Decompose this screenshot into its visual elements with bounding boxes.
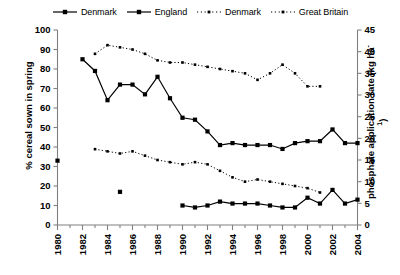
series-marker-2 [294,72,297,75]
y-axis-left-tick-label: 90 [40,44,51,55]
series-marker-3 [206,163,209,166]
y-axis-left-tick-label: 60 [40,102,51,113]
y-axis-right-title-base: phosphate application rate (kg ha [365,48,376,200]
y-axis-right-title: phosphate application rate (kg ha-1) [364,42,388,202]
series-marker-0 [355,141,359,145]
x-axis-tick-label: 1996 [252,234,263,255]
series-marker-0 [80,57,84,61]
series-line-3 [95,149,320,192]
x-axis-tick-label: 1988 [152,234,163,255]
series-marker-3 [181,163,184,166]
series-marker-0 [55,159,59,163]
y-axis-left-tick-label: 20 [40,180,51,191]
y-axis-left-tick-label: 70 [40,83,51,94]
x-axis-tick-label: 1994 [227,233,238,255]
series-marker-2 [181,61,184,64]
series-marker-2 [219,68,222,71]
series-marker-0 [143,92,147,96]
series-marker-0 [280,147,284,151]
series-marker-3 [269,180,272,183]
series-marker-0 [318,139,322,143]
x-axis-tick-label: 1986 [127,234,138,255]
series-marker-1 [305,196,309,200]
series-marker-0 [268,143,272,147]
series-marker-1 [318,201,322,205]
series-marker-0 [255,143,259,147]
x-axis-tick-label: 1998 [277,234,288,255]
y-axis-left-title: % cereal sown in spring [23,36,34,196]
series-marker-3 [244,180,247,183]
x-axis-tick-label: 2002 [327,234,338,255]
series-marker-2 [131,48,134,51]
series-marker-0 [180,116,184,120]
x-axis-tick-label: 2000 [302,234,313,255]
series-marker-0 [293,141,297,145]
series-marker-2 [194,63,197,66]
series-marker-3 [219,170,222,173]
y-axis-left-tick-label: 0 [45,219,50,230]
y-axis-right-tick-label: 45 [365,24,376,35]
series-marker-0 [218,143,222,147]
series-marker-3 [106,150,109,153]
series-marker-0 [130,83,134,87]
series-marker-1 [293,205,297,209]
series-marker-3 [281,183,284,186]
y-axis-left-tick-label: 80 [40,63,51,74]
series-marker-2 [256,79,259,82]
series-marker-3 [119,152,122,155]
series-marker-0 [105,98,109,102]
series-marker-2 [156,59,159,62]
series-line-0 [83,59,358,149]
series-marker-3 [231,176,234,179]
series-marker-0 [93,69,97,73]
series-marker-0 [305,139,309,143]
series-marker-3 [319,191,322,194]
series-marker-2 [244,72,247,75]
series-marker-3 [306,187,309,190]
series-marker-1 [343,201,347,205]
series-marker-0 [118,83,122,87]
series-marker-3 [144,154,147,157]
series-marker-0 [155,75,159,79]
series-marker-3 [156,159,159,162]
series-marker-1 [205,203,209,207]
y-axis-right-tick-label: 0 [365,219,370,230]
series-marker-2 [281,63,284,66]
y-axis-left-tick-label: 40 [40,141,51,152]
series-marker-1 [193,205,197,209]
series-marker-3 [131,150,134,153]
series-marker-1 [355,198,359,202]
series-marker-0 [330,127,334,131]
series-marker-1 [280,205,284,209]
series-marker-2 [269,72,272,75]
series-marker-1 [243,201,247,205]
series-marker-1 [255,201,259,205]
y-axis-left-tick-label: 50 [40,122,51,133]
x-axis-tick-label: 1982 [77,234,88,255]
series-marker-2 [144,53,147,56]
series-marker-1 [230,201,234,205]
series-marker-0 [243,143,247,147]
series-marker-0 [343,141,347,145]
y-axis-left-tick-label: 100 [35,24,51,35]
series-marker-1 [118,190,122,194]
chart-container: DenmarkEnglandDenmarkGreat Britain 01020… [0,0,400,275]
series-marker-2 [306,85,309,88]
series-marker-1 [218,200,222,204]
x-axis-tick-label: 1980 [52,234,63,255]
series-marker-0 [193,118,197,122]
series-marker-3 [94,148,97,151]
series-marker-0 [230,141,234,145]
series-marker-2 [319,85,322,88]
series-marker-1 [268,203,272,207]
x-axis-tick-label: 1990 [177,234,188,255]
series-marker-2 [169,61,172,64]
y-axis-right-title-close: ) [377,119,388,122]
plot-area: 0102030405060708090100051015202530354045… [0,0,400,275]
series-marker-2 [94,53,97,56]
series-marker-1 [330,188,334,192]
x-axis-tick-label: 2004 [352,233,363,255]
series-marker-2 [119,46,122,49]
series-marker-2 [206,66,209,69]
series-marker-3 [294,185,297,188]
